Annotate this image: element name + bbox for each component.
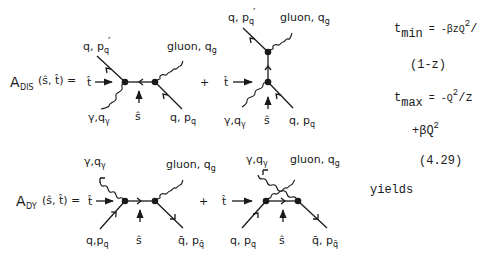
- s-hat-label: ŝ: [136, 234, 142, 247]
- photon-line: [100, 182, 125, 201]
- feynman-diagrams-figure: A DIS (ŝ, t̂) = t̂ ŝ q, pq ′ gluon, qg γ…: [0, 0, 486, 257]
- amplitude-symbol: A: [10, 74, 20, 90]
- gluon-label: gluon, qg: [166, 158, 216, 173]
- outgoing-antiquark-line: [155, 201, 183, 228]
- gluon-line: [268, 33, 292, 52]
- gluon-line: [155, 61, 183, 82]
- quark-arrow-icon: [106, 68, 111, 73]
- outgoing-quark-label: q, pq: [228, 11, 254, 26]
- t-hat-label: t̂: [221, 195, 227, 208]
- s-hat-label: ŝ: [264, 114, 270, 127]
- incoming-quark-line: [100, 201, 125, 229]
- incoming-quark-line: [242, 201, 266, 228]
- amplitude-args: (ŝ, t̂) =: [38, 74, 76, 87]
- amplitude-subscript: DIS: [20, 83, 34, 92]
- photon-label: γ,qγ: [224, 114, 246, 129]
- outgoing-antiquark-line: [298, 201, 327, 228]
- outgoing-antiquark-label: q̄, pq̄: [312, 234, 338, 249]
- outgoing-quark-label: q, pq: [83, 40, 109, 55]
- gluon-label: gluon, qg: [290, 153, 340, 168]
- photon-label: γ,qγ: [84, 155, 106, 170]
- gluon-label: gluon, qg: [167, 40, 217, 55]
- outgoing-antiquark-label: q̄, pq̄: [178, 234, 204, 249]
- vertex-dot: [152, 79, 159, 86]
- gluon-label: gluon, qg: [280, 11, 330, 26]
- gluon-line: [155, 180, 183, 201]
- dis-s-channel-diagram: t̂ ŝ q, pq ′ gluon, qg γ,qγ q, pq: [83, 35, 217, 126]
- t-hat-label: t̂: [223, 76, 229, 89]
- vertex-dot: [152, 198, 159, 205]
- prime-mark: ′: [108, 35, 111, 48]
- vertex-dot: [263, 198, 270, 205]
- quark-arrow-icon: [276, 94, 281, 99]
- photon-line: [101, 82, 125, 109]
- amplitude-args: (ŝ, t̂) =: [42, 194, 80, 207]
- dy-s-channel-diagram: t̂ ŝ γ,qγ gluon, qg q,pq q̄, pq̄: [84, 155, 216, 249]
- dy-u-channel-diagram: t̂ ŝ γ,qγ gluon, qg q, pq q̄, pq̄: [221, 153, 340, 249]
- amplitude-subscript: DY: [26, 202, 37, 211]
- tmax-continuation: +βQ2: [412, 121, 439, 138]
- tmax-equation: tmax= -Q2/z: [394, 88, 473, 110]
- quark-arrow-icon: [250, 38, 255, 43]
- quark-arrow-icon: [163, 94, 168, 99]
- incoming-quark-label: q, pq: [230, 234, 256, 249]
- dis-amplitude-label: A DIS (ŝ, t̂) =: [10, 74, 76, 92]
- incoming-quark-label: q,pq: [86, 234, 109, 249]
- tmin-equation: tmin= -βzQ2/: [394, 19, 477, 41]
- amplitude-symbol: A: [16, 193, 26, 209]
- s-hat-label: ŝ: [279, 234, 285, 247]
- gluon-line: [266, 180, 295, 201]
- photon-line: [242, 82, 268, 107]
- photon-arrow-icon: [100, 178, 105, 183]
- plus-sign: +: [200, 76, 209, 89]
- yields-text: yields: [370, 183, 413, 197]
- vertex-dot: [265, 49, 272, 56]
- plus-sign: +: [199, 195, 208, 208]
- incoming-quark-line: [155, 82, 182, 109]
- photon-label: γ,qγ: [88, 111, 110, 126]
- t-hat-label: t̂: [86, 76, 92, 89]
- prime-mark: ′: [253, 6, 256, 19]
- vertex-dot: [122, 198, 129, 205]
- vertex-dot: [295, 198, 302, 205]
- photon-arrow-icon: [263, 170, 268, 175]
- t-hat-label: t̂: [87, 195, 93, 208]
- dy-amplitude-label: A DY (ŝ, t̂) =: [16, 193, 80, 211]
- vertex-dot: [122, 79, 129, 86]
- equation-number: (4.29): [419, 154, 462, 168]
- incoming-quark-label: q, pq: [170, 111, 196, 126]
- photon-line: [258, 175, 298, 201]
- t-bounds-equations: tmin= -βzQ2/ (1-z) tmax= -Q2/z +βQ2 (4.2…: [370, 19, 477, 197]
- outgoing-quark-line: [243, 28, 268, 52]
- photon-label: γ,qγ: [246, 153, 268, 168]
- dis-u-channel-diagram: t̂ ŝ q, pq ′ gluon, qg γ,qγ q, pq: [223, 6, 330, 129]
- s-hat-label: ŝ: [135, 110, 141, 123]
- tmin-continuation: (1-z): [410, 58, 446, 72]
- incoming-quark-label: q, pq: [289, 114, 315, 129]
- vertex-dot: [265, 79, 272, 86]
